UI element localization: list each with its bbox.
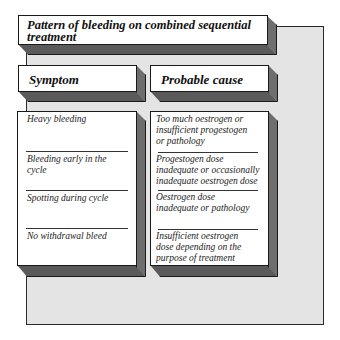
symptom-cell-4: No withdrawal bleed [27,231,132,242]
cause-body-shadow [150,265,278,277]
symptom-body [17,111,137,266]
cause-divider-3 [158,229,258,230]
symptom-body-side [136,111,146,277]
cause-cell-3: Oestrogen dose inadequate or pathology [156,192,256,214]
cause-header-shadow [150,91,278,102]
symptom-body-shadow [17,265,146,277]
symptom-divider-1 [26,151,128,152]
cause-cell-2: Progestogen dose inadequate or occasiona… [156,154,268,187]
title-box-shadow [18,44,277,55]
cause-header: Probable cause [150,65,269,92]
symptom-header: Symptom [18,65,137,92]
symptom-cell-1: Heavy bleeding [27,114,127,125]
cause-divider-2 [158,190,258,191]
cause-cell-1: Too much oestrogen or insufficient proge… [156,114,256,147]
diagram-title: Pattern of bleeding on combined sequenti… [27,19,272,43]
symptom-header-shadow [18,91,146,102]
cause-cell-4: Insufficient oestrogen dose depending on… [156,231,256,264]
symptom-cell-2: Bleeding early in the cycle [27,154,117,176]
cause-header-label: Probable cause [161,72,243,88]
symptom-header-label: Symptom [29,72,79,88]
symptom-divider-2 [26,190,128,191]
cause-divider-1 [158,152,258,153]
symptom-cell-3: Spotting during cycle [27,193,132,204]
cause-body-side [268,111,278,277]
symptom-divider-3 [26,228,128,229]
title-box: Pattern of bleeding on combined sequenti… [18,15,268,45]
